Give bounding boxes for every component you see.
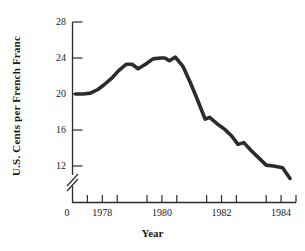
data-series-line xyxy=(75,57,290,179)
x-tick-label-1984: 1984 xyxy=(259,207,303,218)
y-tick-label-28: 28 xyxy=(40,16,66,27)
y-tick-label-12: 12 xyxy=(40,160,66,171)
axis-lines xyxy=(67,22,296,203)
y-tick-label-16: 16 xyxy=(40,124,66,135)
y-tick-label-20: 20 xyxy=(40,88,66,99)
x-tick-label-1982: 1982 xyxy=(200,207,244,218)
chart-container: U.S. Cents per French Franc Year 2824201… xyxy=(0,0,305,251)
x-tick-label-1980: 1980 xyxy=(140,207,184,218)
y-tick-label-24: 24 xyxy=(40,52,66,63)
x-axis-ticks xyxy=(87,195,296,203)
x-axis-origin-label: 0 xyxy=(45,207,89,218)
